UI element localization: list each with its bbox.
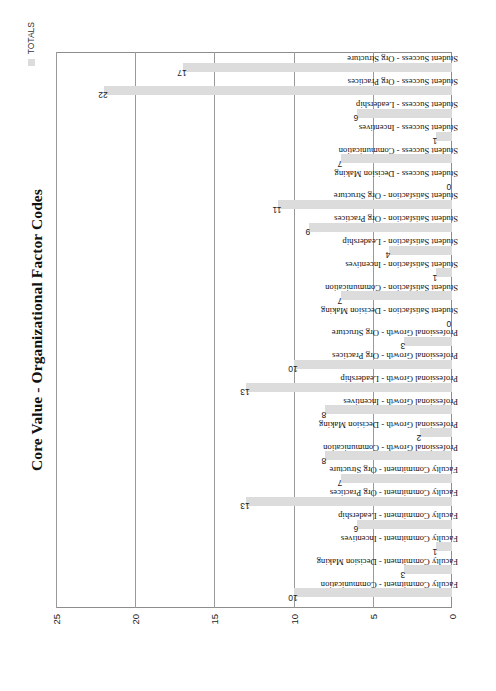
scanned-page: Core Value - Organizational Factor Codes… (0, 0, 496, 691)
category-label: Student Satisfaction - Org Practices (334, 214, 458, 224)
category-label: Student Success - Incentives (359, 123, 458, 133)
bar-value-label: 22 (98, 90, 107, 100)
category-label: Professional Growth - Communication (323, 443, 458, 453)
category-label: Faculty Commitment - Decision Making (317, 557, 458, 567)
category-label: Student Satisfaction - Communication (325, 283, 458, 293)
y-tick-label-5: 5 (367, 614, 378, 642)
bar-value-label: 11 (272, 205, 281, 215)
category-label: Student Success - Org Structure (347, 54, 458, 64)
bar-value-label: 8 (322, 456, 327, 466)
bar-value-label: 6 (354, 113, 359, 123)
y-tick-label-20: 20 (130, 614, 141, 642)
bar-value-label: 17 (177, 68, 186, 78)
bar[interactable]: 9 (309, 223, 452, 232)
category-label: Faculty Commitment - Leadership (338, 511, 458, 521)
bar-value-label: 7 (338, 296, 343, 306)
bar-value-label: 7 (338, 478, 343, 488)
bar-value-label: 13 (240, 501, 249, 511)
category-label: Professional Growth - Incentives (343, 397, 458, 407)
bar-value-label: 1 (433, 273, 438, 283)
category-label: Faculty Commitment - Incentives (341, 534, 458, 544)
category-label: Student Success - Communication (339, 146, 458, 156)
category-label: Student Satisfaction - Decision Making (321, 306, 458, 316)
bar[interactable]: 22 (104, 86, 452, 95)
bar[interactable]: 10 (294, 360, 452, 369)
bar-value-label: 1 (433, 136, 438, 146)
bar-value-label: 10 (288, 364, 297, 374)
category-label: Faculty Commitment - Org Structure (329, 465, 458, 475)
y-tick-label-0: 0 (447, 614, 458, 642)
rotated-chart-wrapper: Core Value - Organizational Factor Codes… (14, 0, 484, 666)
legend-swatch-totals (28, 59, 35, 66)
chart-legend: TOTALS (26, 22, 36, 66)
y-tick-label-10: 10 (288, 614, 299, 642)
bar[interactable]: 17 (183, 63, 452, 72)
category-label: Student Satisfaction - Org Structure (334, 191, 458, 201)
bar[interactable]: 7 (341, 474, 452, 483)
category-label: Faculty Commitment - Org Practices (330, 488, 458, 498)
bar[interactable]: 3 (404, 337, 452, 346)
bar-value-label: 1 (433, 547, 438, 557)
bar-value-label: 2 (417, 433, 422, 443)
bar-value-label: 9 (306, 227, 311, 237)
bar-value-label: 6 (354, 524, 359, 534)
bar-value-label: 13 (240, 387, 249, 397)
bar[interactable]: 4 (389, 246, 452, 255)
category-label: Professional Growth - Decision Making (319, 420, 458, 430)
category-label: Professional Growth - Org Practices (332, 351, 458, 361)
bar-value-label: 4 (385, 250, 390, 260)
category-label: Faculty Commitment - Communication (321, 580, 458, 590)
category-label: Student Success - Org Practices (348, 77, 458, 87)
category-label: Student Satisfaction - Leadership (342, 237, 458, 247)
legend-label-totals: TOTALS (26, 22, 36, 54)
y-tick-label-25: 25 (51, 614, 62, 642)
bar[interactable]: 13 (246, 497, 452, 506)
bar[interactable]: 6 (357, 109, 452, 118)
category-label: Professional Growth - Org Structure (332, 328, 458, 338)
bar-value-label: 3 (401, 570, 406, 580)
bar[interactable]: 11 (278, 200, 452, 209)
bar-value-label: 7 (338, 159, 343, 169)
category-label: Student Success - Leadership (356, 100, 458, 110)
y-tick-label-15: 15 (209, 614, 220, 642)
bar-value-label: 8 (322, 410, 327, 420)
bar-value-label: 3 (401, 341, 406, 351)
bar-chart: Core Value - Organizational Factor Codes… (14, 0, 484, 666)
bar-value-label: 10 (288, 593, 297, 603)
category-label: Student Satisfaction - Incentives (345, 260, 458, 270)
category-label: Professional Growth - Leadership (341, 374, 459, 384)
category-label: Student Success - Decision Making (334, 169, 458, 179)
chart-title: Core Value - Organizational Factor Codes (28, 0, 46, 666)
